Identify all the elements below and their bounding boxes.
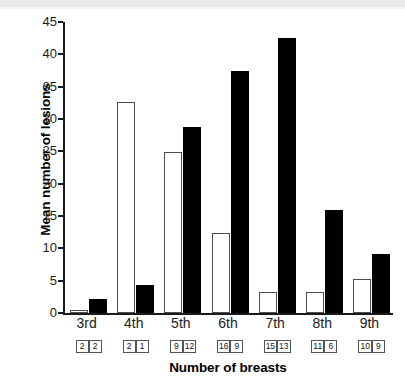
bar-black-5th bbox=[183, 127, 201, 313]
bar-black-3rd bbox=[89, 299, 107, 313]
bar-black-9th bbox=[372, 254, 390, 313]
x-axis-category-labels: 3rd4th5th6th7th8th9th bbox=[63, 316, 393, 336]
y-tick-mark bbox=[58, 280, 63, 282]
sample-size-pair-3rd: 22 bbox=[76, 340, 102, 353]
sample-size-white-6th: 16 bbox=[217, 340, 230, 353]
y-tick-label: 10 bbox=[31, 241, 57, 254]
y-tick-label: 40 bbox=[31, 47, 57, 60]
sample-size-black-9th: 9 bbox=[372, 340, 385, 353]
bar-white-5th bbox=[164, 152, 182, 313]
plot-area: 051015202530354045 bbox=[63, 22, 393, 313]
y-tick-mark bbox=[58, 86, 63, 88]
y-tick-label: 30 bbox=[31, 112, 57, 125]
sample-size-black-3rd: 2 bbox=[89, 340, 102, 353]
sample-size-black-7th: 13 bbox=[277, 340, 290, 353]
bar-white-9th bbox=[353, 279, 371, 313]
bar-chart-figure: Mean number of lesions 05101520253035404… bbox=[0, 0, 405, 387]
bar-black-4th bbox=[136, 285, 154, 313]
category-label-5th: 5th bbox=[157, 316, 204, 330]
y-tick-mark bbox=[58, 118, 63, 120]
sample-size-white-3rd: 2 bbox=[76, 340, 89, 353]
y-tick-mark bbox=[58, 53, 63, 55]
y-tick-label: 25 bbox=[31, 144, 57, 157]
sample-size-pair-4th: 21 bbox=[123, 340, 149, 353]
y-tick-mark bbox=[58, 215, 63, 217]
y-tick-mark bbox=[58, 150, 63, 152]
category-label-8th: 8th bbox=[299, 316, 346, 330]
sample-size-boxes: 22219121691513116109 bbox=[63, 340, 393, 355]
bar-black-8th bbox=[325, 210, 343, 313]
sample-size-pair-6th: 169 bbox=[217, 340, 243, 353]
sample-size-black-8th: 6 bbox=[324, 340, 337, 353]
y-tick-label: 0 bbox=[31, 306, 57, 319]
sample-size-pair-8th: 116 bbox=[311, 340, 337, 353]
category-label-7th: 7th bbox=[252, 316, 299, 330]
top-gray-band bbox=[0, 0, 405, 7]
sample-size-black-5th: 12 bbox=[183, 340, 196, 353]
y-axis-tick-labels: 051015202530354045 bbox=[27, 22, 57, 314]
sample-size-white-4th: 2 bbox=[123, 340, 136, 353]
y-tick-label: 45 bbox=[31, 15, 57, 28]
y-tick-label: 15 bbox=[31, 209, 57, 222]
sample-size-white-5th: 9 bbox=[170, 340, 183, 353]
bar-white-7th bbox=[259, 292, 277, 313]
sample-size-white-7th: 15 bbox=[264, 340, 277, 353]
bar-white-3rd bbox=[70, 310, 88, 313]
y-tick-mark bbox=[58, 21, 63, 23]
bar-black-6th bbox=[231, 71, 249, 314]
sample-size-white-9th: 10 bbox=[358, 340, 371, 353]
sample-size-pair-7th: 1513 bbox=[264, 340, 291, 353]
y-axis-line bbox=[63, 22, 65, 314]
bar-white-6th bbox=[212, 233, 230, 313]
sample-size-pair-5th: 912 bbox=[170, 340, 196, 353]
category-label-9th: 9th bbox=[346, 316, 393, 330]
top-gray-band-fade bbox=[0, 7, 405, 9]
y-tick-label: 35 bbox=[31, 80, 57, 93]
y-tick-label: 5 bbox=[31, 274, 57, 287]
bar-black-7th bbox=[278, 38, 296, 313]
sample-size-black-6th: 9 bbox=[230, 340, 243, 353]
bar-white-8th bbox=[306, 292, 324, 313]
y-tick-mark bbox=[58, 312, 63, 314]
category-label-3rd: 3rd bbox=[63, 316, 110, 330]
category-label-4th: 4th bbox=[110, 316, 157, 330]
y-tick-mark bbox=[58, 183, 63, 185]
sample-size-pair-9th: 109 bbox=[358, 340, 384, 353]
x-axis-title: Number of breasts bbox=[63, 360, 393, 375]
bar-white-4th bbox=[117, 102, 135, 313]
sample-size-black-4th: 1 bbox=[136, 340, 149, 353]
category-label-6th: 6th bbox=[204, 316, 251, 330]
sample-size-white-8th: 11 bbox=[311, 340, 324, 353]
y-tick-mark bbox=[58, 247, 63, 249]
y-tick-label: 20 bbox=[31, 177, 57, 190]
